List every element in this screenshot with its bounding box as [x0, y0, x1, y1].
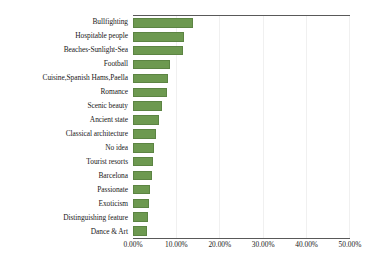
category-label: Beaches-Sunlight-Sea	[64, 46, 131, 53]
bar[interactable]	[133, 101, 162, 111]
bar-row	[133, 60, 349, 70]
gridline	[349, 16, 350, 238]
bar[interactable]	[133, 226, 147, 236]
bar-row	[133, 115, 349, 125]
plot-area	[133, 15, 350, 239]
bar-row	[133, 74, 349, 84]
bar-row	[133, 101, 349, 111]
bar[interactable]	[133, 185, 150, 195]
category-label: Scenic beauty	[87, 102, 131, 109]
bar-row	[133, 143, 349, 153]
value-tick-label: 30.00%	[252, 241, 275, 248]
value-tick-label: 50.00%	[339, 241, 362, 248]
category-label: Tourist resorts	[86, 158, 131, 165]
bar-row	[133, 46, 349, 56]
bar-row	[133, 212, 349, 222]
bar-row	[133, 32, 349, 42]
value-axis: 0.00%10.00%20.00%30.00%40.00%50.00%	[133, 241, 350, 257]
category-label: Romance	[100, 88, 131, 95]
bar[interactable]	[133, 129, 156, 139]
bar[interactable]	[133, 157, 153, 167]
category-label: Hospitable people	[75, 32, 131, 39]
bar[interactable]	[133, 171, 152, 181]
bar[interactable]	[133, 115, 159, 125]
bar-row	[133, 88, 349, 98]
bar-row	[133, 18, 349, 28]
bar[interactable]	[133, 74, 168, 84]
category-label: Cuisine,Spanish Hams,Paella	[43, 74, 131, 81]
bar[interactable]	[133, 212, 148, 222]
category-axis: BullfightingHospitable peopleBeaches-Sun…	[0, 15, 131, 239]
category-label: Ancient state	[90, 116, 131, 123]
bar-row	[133, 129, 349, 139]
category-label: Classical architecture	[66, 130, 131, 137]
category-label: Dance & Art	[91, 228, 131, 235]
bar[interactable]	[133, 88, 167, 98]
bar-row	[133, 199, 349, 209]
category-label: Passionate	[97, 186, 131, 193]
bar-row	[133, 157, 349, 167]
bar-row	[133, 226, 349, 236]
bar-chart-figure: BullfightingHospitable peopleBeaches-Sun…	[0, 0, 367, 266]
bars-layer	[133, 16, 349, 238]
value-tick-label: 0.00%	[123, 241, 142, 248]
category-label: Exoticism	[98, 200, 131, 207]
bar[interactable]	[133, 143, 154, 153]
bar[interactable]	[133, 32, 184, 42]
bar-row	[133, 185, 349, 195]
value-tick-label: 40.00%	[295, 241, 318, 248]
category-label: Football	[104, 60, 131, 67]
value-tick-label: 20.00%	[208, 241, 231, 248]
category-label: Barcelona	[98, 172, 131, 179]
category-label: No idea	[105, 144, 131, 151]
value-tick-label: 10.00%	[165, 241, 188, 248]
bar[interactable]	[133, 60, 170, 70]
bar[interactable]	[133, 18, 193, 28]
bar[interactable]	[133, 199, 149, 209]
category-label: Bullfighting	[92, 18, 131, 25]
bar[interactable]	[133, 46, 183, 56]
category-label: Distinguishing feature	[63, 214, 131, 221]
bar-row	[133, 171, 349, 181]
